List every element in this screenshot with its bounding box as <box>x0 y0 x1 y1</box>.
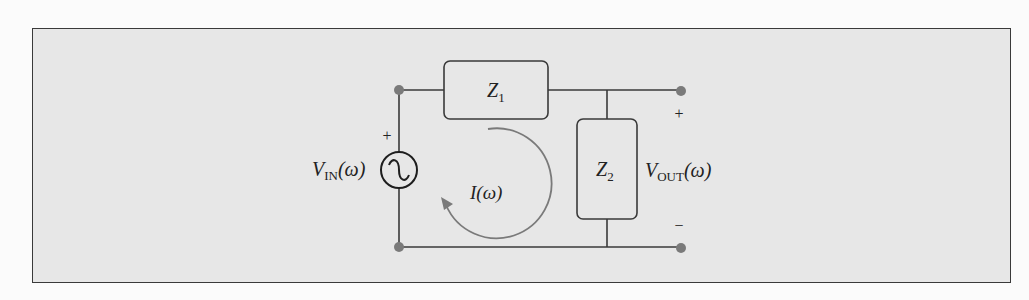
node-in-top <box>394 85 404 95</box>
vout-label: VOUT(ω) <box>645 159 712 184</box>
output-minus-sign: − <box>674 217 683 234</box>
node-in-bottom <box>394 242 404 252</box>
ac-source-icon <box>381 152 417 188</box>
circuit-diagram: Z1 Z2 + VIN(ω) I(ω) + − VOUT(ω) <box>0 0 1029 300</box>
current-label: I(ω) <box>469 182 502 204</box>
source-plus-sign: + <box>382 127 391 144</box>
node-out-bottom <box>676 243 686 253</box>
output-plus-sign: + <box>674 105 683 122</box>
node-out-top <box>676 86 686 96</box>
vin-label: VIN(ω) <box>312 158 366 183</box>
